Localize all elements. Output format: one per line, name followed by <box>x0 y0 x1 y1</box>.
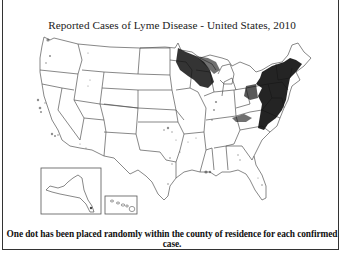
alaska-inset <box>41 168 101 214</box>
map-caption: One dot has been placed randomly within … <box>0 229 344 249</box>
hawaii-inset <box>105 196 137 214</box>
us-map <box>0 0 344 256</box>
